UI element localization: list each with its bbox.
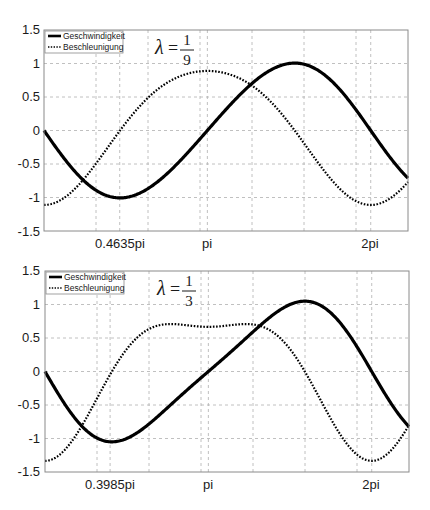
lambda-annotation: λ = 1 3 [156,273,196,309]
y-tick-label: 1 [33,56,40,71]
fraction-denominator: 9 [183,52,191,68]
grid [45,271,409,472]
lambda-annotation: λ = 1 9 [154,32,194,68]
chart-lambda-1-3: 1.5 1 0.5 0 -0.5 -1 -1.5 0.3985pi pi 2pi… [0,255,430,510]
plot-area: 1.5 1 0.5 0 -0.5 -1 -1.5 0.4635pi pi 2pi… [0,0,430,255]
y-tick-label: -0.5 [18,397,40,412]
grid [44,30,408,231]
legend: Geschwindigkeit Beschleunigung [45,31,126,53]
x-tick-label: 2pi [362,477,379,492]
x-tick-labels: 0.4635pi pi 2pi [95,236,379,251]
y-tick-label: 0 [33,123,40,138]
y-tick-label: 1.5 [22,263,40,278]
fraction-numerator: 1 [185,273,193,289]
y-tick-label: -1 [28,190,40,205]
acceleration-curve [44,71,408,205]
x-tick-labels: 0.3985pi pi 2pi [85,477,380,492]
x-tick-label: pi [202,236,212,251]
equals-sign: = [170,279,180,299]
y-tick-label: 0.5 [22,89,40,104]
equals-sign: = [168,38,178,58]
fraction-numerator: 1 [183,32,191,48]
x-tick-label: 0.3985pi [85,477,135,492]
x-tick-label: 0.4635pi [95,236,145,251]
y-tick-label: 0.5 [22,330,40,345]
legend: Geschwindigkeit Beschleunigung [46,272,127,294]
chart-lambda-1-9: 1.5 1 0.5 0 -0.5 -1 -1.5 0.4635pi pi 2pi… [0,0,430,255]
lambda-symbol: λ [156,277,166,299]
legend-label-acceleration: Beschleunigung [63,42,124,52]
y-tick-label: 0 [33,364,40,379]
x-tick-label: 2pi [361,236,378,251]
x-tick-label: pi [203,477,213,492]
y-tick-label: -1.5 [18,464,40,479]
y-tick-label: 1.5 [22,22,40,37]
y-tick-label: -1 [28,431,40,446]
y-tick-label: 1 [33,297,40,312]
y-tick-labels: 1.5 1 0.5 0 -0.5 -1 -1.5 [18,22,40,239]
y-tick-label: -1.5 [18,224,40,239]
legend-label-velocity: Geschwindigkeit [64,272,127,282]
y-tick-labels: 1.5 1 0.5 0 -0.5 -1 -1.5 [18,263,40,479]
legend-label-acceleration: Beschleunigung [64,283,125,293]
lambda-symbol: λ [154,36,164,58]
y-tick-label: -0.5 [18,156,40,171]
legend-label-velocity: Geschwindigkeit [63,31,126,41]
plot-area: 1.5 1 0.5 0 -0.5 -1 -1.5 0.3985pi pi 2pi… [0,255,430,510]
fraction-denominator: 3 [185,293,193,309]
